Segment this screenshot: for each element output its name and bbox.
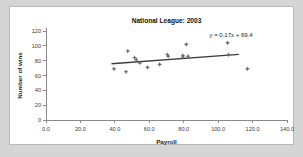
y-axis-tick-label: 120 xyxy=(32,28,41,34)
data-point-marker xyxy=(225,40,230,45)
data-point xyxy=(112,66,117,71)
data-point xyxy=(184,42,189,47)
data-point-marker xyxy=(125,49,130,54)
data-point xyxy=(157,62,162,67)
x-axis-tick-label: 120.0 xyxy=(246,126,260,132)
chart-title: National League: 2003 xyxy=(132,17,202,25)
data-point xyxy=(226,52,231,57)
data-point-marker xyxy=(226,52,231,57)
y-axis-title: Number of wins xyxy=(16,52,23,99)
data-point xyxy=(124,69,129,74)
x-axis-title: Payroll xyxy=(156,138,177,145)
data-point xyxy=(125,49,130,54)
trendline-equation-label: y = 0.17x + 69.4 xyxy=(210,32,254,38)
data-point-marker xyxy=(145,65,150,70)
x-axis-tick-label: 80.0 xyxy=(178,126,189,132)
y-axis-tick-label: 100 xyxy=(32,43,41,49)
y-axis-tick-label: 20 xyxy=(35,102,41,108)
data-point xyxy=(225,40,230,45)
data-point-marker xyxy=(112,66,117,71)
y-axis-tick-label: 0 xyxy=(38,117,41,123)
y-axis-tick-label: 60 xyxy=(35,73,41,79)
x-axis-tick-label: 40.0 xyxy=(109,126,120,132)
x-axis-tick-label: 20.0 xyxy=(75,126,86,132)
screenshot-root: National League: 20030204060801001200.02… xyxy=(0,0,303,157)
y-axis-tick-label: 80 xyxy=(35,58,41,64)
x-axis-tick-label: 0.0 xyxy=(42,126,50,132)
chart-panel: National League: 20030204060801001200.02… xyxy=(9,6,294,145)
data-point-marker xyxy=(124,69,129,74)
data-point xyxy=(245,66,250,71)
data-point-marker xyxy=(245,66,250,71)
data-point xyxy=(145,65,150,70)
trend-line xyxy=(111,54,238,63)
data-point-marker xyxy=(184,42,189,47)
data-point-marker xyxy=(157,62,162,67)
x-axis-tick-label: 100.0 xyxy=(211,126,225,132)
y-axis-tick-label: 40 xyxy=(35,87,41,93)
x-axis-tick-label: 140.0 xyxy=(280,126,294,132)
x-axis-tick-label: 60.0 xyxy=(144,126,155,132)
scatter-plot: National League: 20030204060801001200.02… xyxy=(10,7,295,146)
